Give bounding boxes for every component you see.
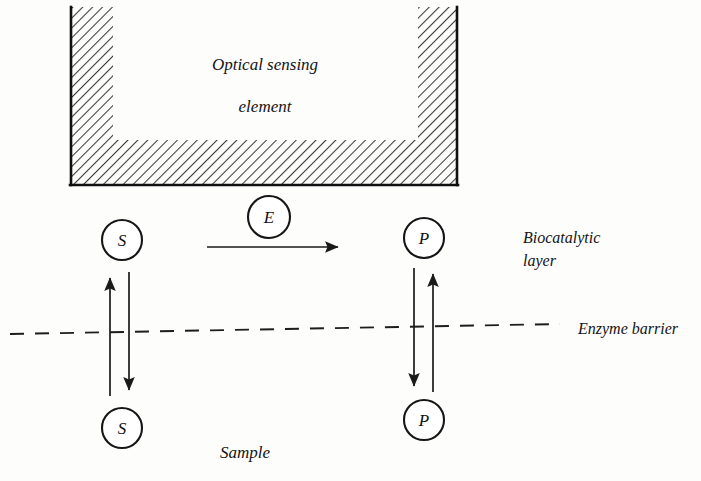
product-upper-letter: P: [418, 229, 429, 248]
node-substrate-upper: S: [102, 220, 142, 260]
enzyme-barrier-dashed-line: [10, 324, 560, 334]
sensing-element-label-line1: Optical sensing: [212, 55, 318, 74]
biosensor-diagram: Optical sensing element S E P S: [0, 0, 701, 481]
enzyme-barrier-label: Enzyme barrier: [577, 320, 679, 338]
node-product-upper: P: [404, 218, 444, 258]
node-product-lower: P: [404, 400, 444, 440]
sample-label: Sample: [220, 443, 271, 462]
substrate-upper-letter: S: [118, 231, 127, 250]
node-enzyme: E: [248, 196, 290, 238]
diagram-canvas: Optical sensing element S E P S: [0, 0, 701, 481]
substrate-lower-letter: S: [118, 419, 127, 438]
optical-sensing-element-body: [70, 7, 458, 185]
enzyme-letter: E: [263, 208, 275, 227]
sensing-element-label-line2: element: [239, 97, 293, 116]
node-substrate-lower: S: [102, 408, 142, 448]
product-lower-letter: P: [418, 411, 429, 430]
biocatalytic-layer-label-line1: Biocatalytic: [523, 229, 600, 247]
sensing-element-hatch-fill: [71, 7, 457, 185]
biocatalytic-layer-label-line2: layer: [523, 252, 557, 270]
